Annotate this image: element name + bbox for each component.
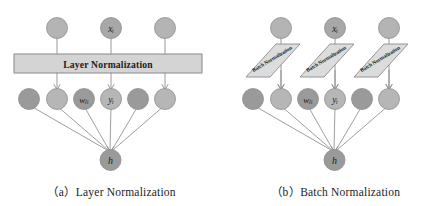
panel-b-caption-index: （b）: [271, 186, 300, 198]
fanin-edge-3: [84, 106, 109, 150]
fanin-edge-2: [57, 106, 108, 150]
batch-normalization-diagram: Batch Normalization Batch Normalization …: [224, 0, 447, 180]
hidden-to-output-edges: [253, 105, 389, 152]
hidden-node-1: [243, 89, 264, 110]
fanin-edge-4: [334, 106, 335, 150]
output-node-group: h: [100, 150, 121, 171]
batch-normalization-block-3: Batch Normalization: [354, 44, 408, 77]
input-node-1: [271, 18, 292, 39]
hidden-node-2: [271, 89, 292, 110]
hidden-node-yi-label: yᵢ: [331, 95, 338, 105]
input-node-row: xᵢ: [47, 18, 176, 39]
hidden-node-row: wⱼᵢ yᵢ: [19, 89, 176, 110]
fanin-edge-5: [336, 106, 362, 150]
output-node-group: h: [324, 150, 345, 171]
hidden-to-output-edges: [29, 105, 165, 152]
panel-a-caption-text: Layer Normalization: [76, 186, 176, 198]
hidden-node-6: [155, 89, 176, 110]
hidden-node-2: [47, 89, 68, 110]
hidden-node-wji-label: wⱼᵢ: [79, 95, 89, 105]
panel-a-caption: （a）Layer Normalization: [0, 183, 223, 199]
input-node-xi-label: xᵢ: [331, 24, 338, 34]
fanin-edge-3: [308, 106, 333, 150]
layer-normalization-diagram: Layer Normalization: [0, 0, 223, 180]
hidden-node-wji-label: wⱼᵢ: [303, 95, 313, 105]
batch-normalization-block-1: Batch Normalization: [246, 44, 300, 77]
norm-to-hidden-arrows: [54, 73, 168, 90]
hidden-node-row: wⱼᵢ yᵢ: [243, 89, 400, 110]
panel-layer-normalization: Layer Normalization: [0, 0, 223, 206]
figure-root: Layer Normalization: [0, 0, 447, 206]
fanin-edge-6: [337, 105, 389, 150]
output-node-h-label: h: [108, 155, 113, 166]
panel-b-caption-text: Batch Normalization: [300, 186, 400, 198]
input-node-3: [155, 18, 176, 39]
batch-normalization-block-2: Batch Normalization: [300, 44, 354, 77]
output-node-h-label: h: [332, 155, 337, 166]
hidden-node-6: [379, 89, 400, 110]
fanin-edge-1: [253, 105, 331, 150]
input-node-1: [47, 18, 68, 39]
fanin-edge-6: [113, 105, 165, 150]
input-node-xi-label: xᵢ: [107, 24, 114, 34]
hidden-node-yi-label: yᵢ: [107, 95, 114, 105]
panel-a-caption-index: （a）: [47, 186, 76, 198]
input-to-norm-edges: [57, 38, 165, 54]
fanin-edge-4: [110, 106, 111, 150]
panel-b-caption: （b）Batch Normalization: [224, 183, 447, 199]
layer-normalization-block-label: Layer Normalization: [63, 59, 153, 70]
hidden-node-5: [128, 89, 149, 110]
hidden-node-1: [19, 89, 40, 110]
fanin-edge-5: [112, 106, 138, 150]
input-node-3: [379, 18, 400, 39]
hidden-node-5: [352, 89, 373, 110]
batch-normalization-blocks: Batch Normalization Batch Normalization …: [246, 44, 408, 77]
layer-normalization-block: Layer Normalization: [14, 54, 202, 73]
panel-batch-normalization: Batch Normalization Batch Normalization …: [224, 0, 447, 206]
fanin-edge-1: [29, 105, 107, 150]
input-node-row: xᵢ: [271, 18, 400, 39]
fanin-edge-2: [281, 106, 332, 150]
